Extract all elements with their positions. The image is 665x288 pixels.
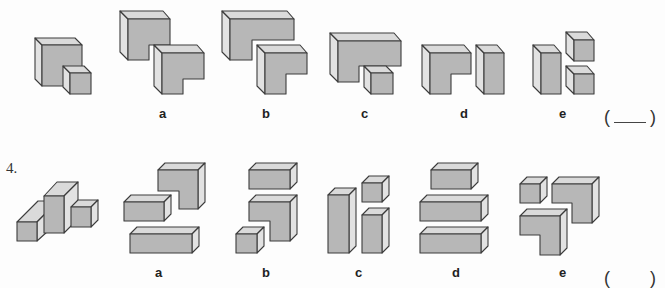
q3-option-e-label: e (559, 106, 566, 121)
answer-blank[interactable] (614, 270, 646, 284)
q3-option-b-figure (222, 11, 307, 94)
q3-option-c-figure (330, 33, 401, 94)
answer-close-paren: ) (650, 107, 656, 127)
answer-blank[interactable] (614, 108, 646, 123)
q3-option-c-label: c (361, 106, 368, 121)
answer-close-paren: ) (650, 268, 656, 288)
q4-option-b-label: b (262, 265, 270, 280)
q3-answer-box[interactable]: () (604, 107, 656, 128)
q4-option-a-label: a (155, 265, 162, 280)
q3-option-a-label: a (159, 106, 166, 121)
answer-open-paren: ( (604, 268, 610, 288)
q4-option-c-figure (328, 176, 389, 253)
q4-option-b-figure (236, 163, 297, 253)
q4-option-d-figure (420, 163, 488, 253)
q3-option-e-figure (533, 32, 594, 94)
q3-option-d-label: d (460, 106, 468, 121)
q3-option-b-label: b (262, 106, 270, 121)
q4-option-e-figure (520, 177, 599, 255)
answer-open-paren: ( (604, 107, 610, 127)
puzzle-figures (0, 0, 665, 288)
q4-answer-box[interactable]: () (604, 268, 656, 288)
q3-target-figure (35, 38, 91, 94)
q4-option-a-figure (124, 163, 205, 253)
q3-option-d-figure (422, 45, 504, 94)
q4-option-c-label: c (355, 265, 362, 280)
q4-number: 4. (6, 160, 17, 177)
q3-option-a-figure (120, 11, 204, 94)
q4-target-figure (17, 182, 98, 241)
q4-option-d-label: d (452, 265, 460, 280)
q4-option-e-label: e (559, 265, 566, 280)
